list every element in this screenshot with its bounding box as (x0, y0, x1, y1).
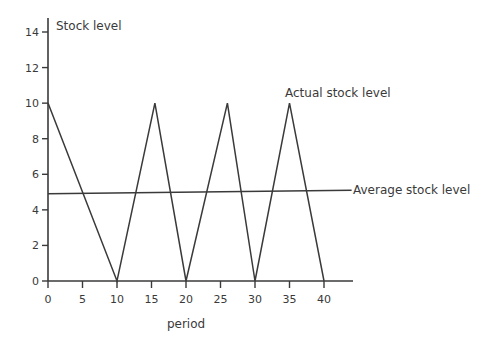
x-tick-label: 10 (110, 293, 124, 306)
y-axis-label: Stock level (56, 19, 122, 33)
stock-level-chart: 024681012140510152025303540 Stock level … (0, 0, 481, 343)
y-tick-label: 6 (32, 168, 39, 181)
x-tick-label: 25 (214, 293, 228, 306)
average-stock-label: Average stock level (353, 183, 470, 197)
y-tick-label: 14 (25, 26, 39, 39)
y-tick-label: 4 (32, 204, 39, 217)
series-lines (48, 103, 352, 281)
x-tick-label: 15 (145, 293, 159, 306)
x-tick-label: 40 (317, 293, 331, 306)
actual-stock-label: Actual stock level (285, 86, 391, 100)
y-tick-label: 0 (32, 275, 39, 288)
x-tick-label: 0 (45, 293, 52, 306)
y-tick-label: 2 (32, 239, 39, 252)
x-tick-label: 5 (79, 293, 86, 306)
x-tick-label: 30 (248, 293, 262, 306)
x-tick-label: 20 (179, 293, 193, 306)
axis-ticks: 024681012140510152025303540 (25, 26, 331, 306)
y-tick-label: 10 (25, 97, 39, 110)
y-tick-label: 12 (25, 62, 39, 75)
y-tick-label: 8 (32, 133, 39, 146)
axes (48, 18, 353, 281)
x-axis-label: period (167, 317, 205, 331)
x-tick-label: 35 (283, 293, 297, 306)
